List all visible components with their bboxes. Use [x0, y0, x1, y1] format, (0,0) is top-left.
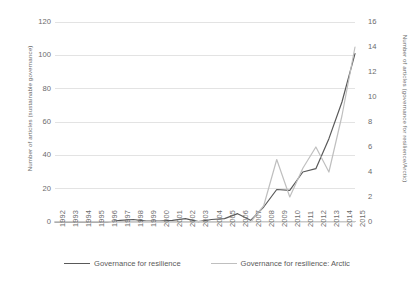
- x-axis-tick-label: 2004: [215, 187, 224, 227]
- x-axis-tick-label: 2014: [345, 187, 354, 227]
- x-axis-tick-label: 2008: [267, 187, 276, 227]
- y-axis-right-tick-label: 4: [368, 167, 408, 176]
- x-axis-tick-label: 1992: [58, 187, 67, 227]
- y-axis-right-tick-label: 0: [368, 217, 408, 226]
- x-axis-tick-label: 1993: [71, 187, 80, 227]
- y-axis-left-tick-label: 0: [11, 217, 51, 226]
- x-axis-tick-label: 2006: [241, 187, 250, 227]
- y-axis-right-tick-label: 6: [368, 142, 408, 151]
- legend-item[interactable]: Governance for resilience: [64, 259, 181, 268]
- line-chart: Number of articles (sustainable governan…: [0, 0, 414, 285]
- x-axis-tick-label: 2002: [188, 187, 197, 227]
- y-axis-left-tick-label: 100: [11, 50, 51, 59]
- legend-line-icon: [211, 263, 237, 264]
- x-axis-tick-label: 2007: [254, 187, 263, 227]
- y-axis-right-tick-label: 14: [368, 42, 408, 51]
- x-axis-tick-label: 1996: [110, 187, 119, 227]
- y-axis-left-tick-label: 40: [11, 150, 51, 159]
- y-axis-right-tick-label: 10: [368, 92, 408, 101]
- legend-line-icon: [64, 263, 90, 264]
- x-axis-tick-label: 1994: [84, 187, 93, 227]
- y-axis-left-tick-label: 20: [11, 184, 51, 193]
- y-axis-left-tick-label: 120: [11, 17, 51, 26]
- y-axis-right-tick-label: 12: [368, 67, 408, 76]
- legend-label: Governance for resilience: [94, 259, 181, 268]
- legend-item[interactable]: Governance for resilience: Arctic: [211, 259, 350, 268]
- x-axis-tick-label: 2015: [358, 187, 367, 227]
- x-axis-tick-label: 2009: [280, 187, 289, 227]
- x-axis-tick-label: 1999: [149, 187, 158, 227]
- x-axis-tick-label: 2013: [332, 187, 341, 227]
- x-axis-tick-label: 1997: [123, 187, 132, 227]
- x-axis-tick-label: 2012: [319, 187, 328, 227]
- chart-legend: Governance for resilienceGovernance for …: [0, 259, 414, 268]
- x-axis-tick-label: 2010: [293, 187, 302, 227]
- x-axis-tick-label: 1995: [97, 187, 106, 227]
- x-axis-tick-label: 2000: [162, 187, 171, 227]
- y-axis-right-tick-label: 8: [368, 117, 408, 126]
- legend-label: Governance for resilience: Arctic: [241, 259, 350, 268]
- y-axis-left-tick-label: 60: [11, 117, 51, 126]
- x-axis-tick-label: 2001: [175, 187, 184, 227]
- y-axis-left-tick-label: 80: [11, 84, 51, 93]
- y-axis-right-tick-label: 2: [368, 192, 408, 201]
- x-axis-tick-label: 2003: [201, 187, 210, 227]
- x-axis-tick-label: 2011: [306, 187, 315, 227]
- y-axis-right-title: Number of articles (governance for resil…: [402, 34, 409, 184]
- x-axis-tick-label: 2005: [228, 187, 237, 227]
- y-axis-right-tick-label: 16: [368, 17, 408, 26]
- x-axis-tick-label: 1998: [136, 187, 145, 227]
